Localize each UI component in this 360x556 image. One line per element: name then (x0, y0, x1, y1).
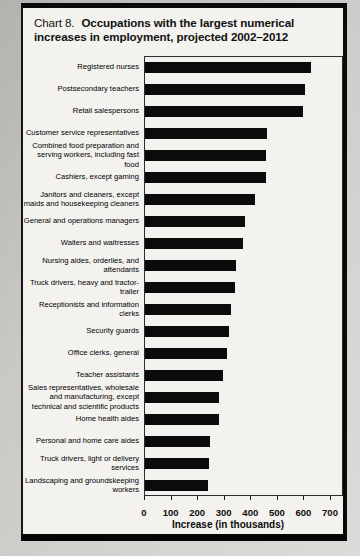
bar (145, 238, 243, 249)
axis-tick (171, 496, 172, 500)
bar-row: Security guards (23, 320, 343, 342)
bar-track (144, 78, 343, 100)
axis-tick (250, 496, 251, 500)
bar-track (144, 166, 343, 188)
category-label: Waiters and waitresses (23, 238, 144, 247)
axis-tick (277, 496, 278, 500)
category-label: Registered nurses (23, 62, 144, 71)
bar-row: Office clerks, general (23, 342, 343, 364)
bar (145, 326, 229, 337)
axis-tick-label: 200 (189, 507, 205, 518)
bar (145, 304, 231, 315)
bar (145, 458, 209, 469)
bar (145, 150, 266, 161)
category-label: Cashiers, except gaming (23, 172, 144, 181)
x-axis-title: Increase (in thousands) (135, 519, 321, 530)
category-label: Teacher assistants (23, 370, 144, 379)
bar (145, 348, 227, 359)
axis-tick-label: 0 (141, 507, 146, 518)
bar-row: Nursing aides, orderlies, and attendants (23, 254, 343, 276)
bar-row: Cashiers, except gaming (23, 166, 343, 188)
category-label: Postsecondary teachers (23, 84, 144, 93)
bar-row: Postsecondary teachers (23, 78, 343, 100)
bar-row: Landscaping and groundskeeping workers (23, 474, 343, 496)
bar-row: Waiters and waitresses (23, 232, 343, 254)
bar (145, 436, 210, 447)
bar-row: Sales representatives, wholesale and man… (23, 386, 343, 408)
bar-track (144, 210, 343, 232)
axis-tick (330, 496, 331, 500)
bar (145, 216, 245, 227)
bar-track (144, 364, 343, 386)
bar-track (144, 386, 343, 408)
category-label: General and operations managers (23, 216, 144, 225)
category-label: Receptionists and information clerks (23, 300, 144, 319)
category-label: Customer service representatives (23, 128, 144, 137)
category-label: Office clerks, general (23, 348, 144, 357)
bar-row: Janitors and cleaners, except maids and … (23, 188, 343, 210)
axis-tick (224, 496, 225, 500)
category-label: Janitors and cleaners, except maids and … (23, 190, 144, 209)
axis-tick (197, 496, 198, 500)
category-label: Nursing aides, orderlies, and attendants (23, 256, 144, 275)
bar (145, 282, 235, 293)
bar (145, 370, 223, 381)
bar (145, 172, 266, 183)
chart-frame: Chart 8.Occupations with the largest num… (21, 3, 347, 541)
bar (145, 414, 219, 425)
bar (145, 392, 219, 403)
scanned-document-page: { "title": { "prefix": "Chart 8.", "main… (0, 0, 360, 556)
bar-row: Retail salespersons (23, 100, 343, 122)
bar-track (144, 452, 343, 474)
bar-track (144, 474, 343, 496)
bar-track (144, 320, 343, 342)
axis-tick-label: 600 (295, 507, 311, 518)
axis-tick (144, 496, 145, 500)
category-label: Personal and home care aides (23, 436, 144, 445)
chart-number: Chart 8. (34, 16, 74, 29)
bar-track (144, 100, 343, 122)
bar-track (144, 254, 343, 276)
bar-row: Truck drivers, heavy and tractor-trailer (23, 276, 343, 298)
bar-track (144, 430, 343, 452)
bar-track (144, 276, 343, 298)
bar-row: Personal and home care aides (23, 430, 343, 452)
bar (145, 480, 208, 491)
axis-tick-label: 500 (269, 507, 285, 518)
category-label: Truck drivers, light or delivery service… (23, 454, 144, 473)
bar-track (144, 122, 343, 144)
bar-track (144, 342, 343, 364)
bar-row: Truck drivers, light or delivery service… (23, 452, 343, 474)
bar-row: Receptionists and information clerks (23, 298, 343, 320)
bar (145, 194, 255, 205)
bar-track (144, 408, 343, 430)
bar-track (144, 298, 343, 320)
chart-title: Chart 8.Occupations with the largest num… (34, 16, 336, 44)
category-label: Truck drivers, heavy and tractor-trailer (23, 278, 144, 297)
axis-tick-label: 400 (242, 507, 258, 518)
category-label: Home health aides (23, 414, 144, 423)
bar-track (144, 144, 343, 166)
category-label: Sales representatives, wholesale and man… (23, 383, 144, 411)
bar-track (144, 188, 343, 210)
bar (145, 128, 267, 139)
axis-tick-label: 300 (216, 507, 232, 518)
axis-tick-label: 700 (322, 507, 338, 518)
bar (145, 62, 311, 73)
category-label: Combined food preparation and serving wo… (23, 141, 144, 169)
bar-track (144, 232, 343, 254)
bar-row: Registered nurses (23, 56, 343, 78)
axis-tick (303, 496, 304, 500)
bar (145, 260, 236, 271)
bar-chart: Registered nursesPostsecondary teachersR… (23, 56, 343, 496)
bar (145, 106, 303, 117)
category-label: Security guards (23, 326, 144, 335)
bar-row: Combined food preparation and serving wo… (23, 144, 343, 166)
bar (145, 84, 305, 95)
bar-track (144, 56, 343, 78)
category-label: Landscaping and groundskeeping workers (23, 476, 144, 495)
category-label: Retail salespersons (23, 106, 144, 115)
bar-row: Home health aides (23, 408, 343, 430)
bar-row: General and operations managers (23, 210, 343, 232)
axis-tick-label: 100 (163, 507, 179, 518)
